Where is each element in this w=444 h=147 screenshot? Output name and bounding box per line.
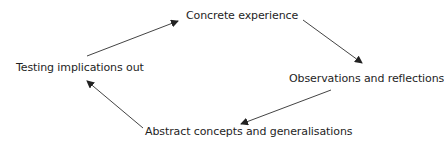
arrow-concrete-to-observations <box>303 20 362 63</box>
arrow-abstract-to-testing <box>87 81 143 128</box>
node-testing-implications: Testing implications out <box>16 61 144 74</box>
node-abstract-concepts: Abstract concepts and generalisations <box>145 125 352 138</box>
arrow-testing-to-concrete <box>87 21 178 56</box>
arrow-observations-to-abstract <box>241 90 331 124</box>
node-observations-and-reflections: Observations and reflections <box>289 72 444 85</box>
node-concrete-experience: Concrete experience <box>186 9 298 22</box>
